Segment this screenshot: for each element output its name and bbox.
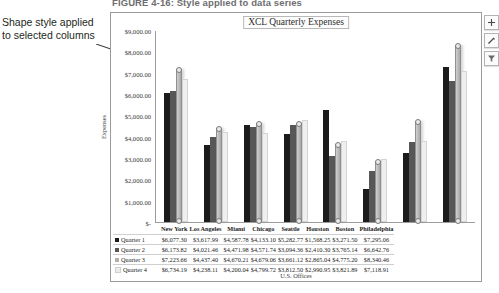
table-cell: $4,133.10 bbox=[250, 234, 277, 244]
table-cell: $2,865.04 bbox=[304, 254, 331, 264]
table-cell: $6,077.30 bbox=[160, 234, 189, 244]
x-axis-title: U.S. Offices bbox=[111, 272, 481, 279]
table-cell: $1,568.25 bbox=[304, 234, 331, 244]
bar-group[interactable] bbox=[276, 31, 316, 222]
bar-quarter-4[interactable] bbox=[262, 133, 268, 222]
table-cell: $5,282.77 bbox=[277, 234, 304, 244]
selection-handle[interactable] bbox=[256, 121, 262, 127]
table-cell: $4,587.78 bbox=[223, 234, 250, 244]
legend-swatch-icon bbox=[115, 238, 119, 242]
chart-filters-button[interactable] bbox=[484, 51, 499, 66]
chart-object[interactable]: XCL Quarterly Expenses Expenses $9,000.0… bbox=[110, 12, 482, 282]
callout-line-2: to selected columns bbox=[2, 29, 106, 42]
legend-swatch-icon bbox=[115, 258, 119, 262]
table-cell: $7,223.66 bbox=[160, 254, 189, 264]
data-table-body: Quarter 1$6,077.30$3,617.99$4,587.78$4,1… bbox=[113, 234, 394, 274]
bar-group[interactable] bbox=[156, 31, 196, 222]
legend-label: Quarter 2 bbox=[121, 246, 145, 253]
chart-data-table: New YorkLos AngelesMiamiChicagoSeattleHo… bbox=[113, 225, 394, 274]
paintbrush-icon bbox=[487, 36, 496, 45]
bar-group[interactable] bbox=[435, 31, 475, 222]
legend-entry[interactable]: Quarter 2 bbox=[113, 244, 160, 254]
data-table-header: New YorkLos AngelesMiamiChicagoSeattleHo… bbox=[113, 225, 394, 234]
legend-entry[interactable]: Quarter 3 bbox=[113, 254, 160, 264]
table-row: Quarter 3$7,223.66$4,437.40$4,670.21$4,6… bbox=[113, 254, 394, 264]
selection-handle[interactable] bbox=[415, 119, 421, 125]
table-column-header: Houston bbox=[304, 225, 331, 234]
bar-group[interactable] bbox=[236, 31, 276, 222]
chart-buttons-group bbox=[484, 15, 499, 66]
table-column-header: Miami bbox=[223, 225, 250, 234]
callout-annotation: Shape style applied to selected columns bbox=[2, 16, 106, 42]
y-axis-tick: $6,000.00 bbox=[125, 92, 151, 99]
legend-swatch-icon bbox=[115, 248, 119, 252]
bar-quarter-4[interactable] bbox=[182, 79, 188, 222]
figure-caption-text: Style applied to data series bbox=[177, 0, 302, 8]
table-corner-cell bbox=[113, 225, 160, 234]
y-axis-tick: $2,000.00 bbox=[125, 177, 151, 184]
table-cell: $3,271.50 bbox=[331, 234, 358, 244]
callout-line-1: Shape style applied bbox=[2, 16, 106, 29]
table-column-header: Philadelphia bbox=[358, 225, 394, 234]
chart-styles-button[interactable] bbox=[484, 33, 499, 48]
bar-quarter-4[interactable] bbox=[461, 71, 467, 222]
figure-caption: FIGURE 4-16: Style applied to data serie… bbox=[112, 0, 302, 8]
table-cell: $4,775.20 bbox=[331, 254, 358, 264]
bar-group[interactable] bbox=[355, 31, 395, 222]
bar-quarter-4[interactable] bbox=[421, 141, 427, 222]
table-column-header: Los Angeles bbox=[189, 225, 223, 234]
legend-label: Quarter 1 bbox=[121, 236, 145, 243]
y-axis-tick: $7,000.00 bbox=[125, 70, 151, 77]
plot-wrapper: Expenses $9,000.00$8,000.00$7,000.00$6,0… bbox=[155, 31, 475, 223]
table-cell: $3,765.14 bbox=[331, 244, 358, 254]
table-cell: $4,437.40 bbox=[189, 254, 223, 264]
table-column-header: Boston bbox=[331, 225, 358, 234]
y-axis-tick: $4,000.00 bbox=[125, 134, 151, 141]
y-axis-tick: $9,000.00 bbox=[125, 28, 151, 35]
plot-area[interactable] bbox=[155, 31, 475, 223]
table-cell: $4,471.98 bbox=[223, 244, 250, 254]
selection-handle[interactable] bbox=[216, 126, 222, 132]
y-axis-tick: $5,000.00 bbox=[125, 113, 151, 120]
bar-quarter-4[interactable] bbox=[381, 159, 387, 222]
y-axis: $9,000.00$8,000.00$7,000.00$6,000.00$5,0… bbox=[113, 31, 153, 223]
funnel-icon bbox=[487, 54, 496, 63]
y-axis-tick: $1,000.00 bbox=[125, 198, 151, 205]
bar-group[interactable] bbox=[316, 31, 356, 222]
table-column-header: Chicago bbox=[250, 225, 277, 234]
y-axis-tick: $3,000.00 bbox=[125, 156, 151, 163]
figure-number: FIGURE 4-16: bbox=[112, 0, 174, 8]
chart-elements-button[interactable] bbox=[484, 15, 499, 30]
bar-group[interactable] bbox=[196, 31, 236, 222]
table-row: Quarter 2$6,173.82$4,021.46$4,471.98$4,5… bbox=[113, 244, 394, 254]
table-column-header: New York bbox=[160, 225, 189, 234]
bar-quarter-4[interactable] bbox=[222, 132, 228, 222]
bar-quarter-4[interactable] bbox=[302, 120, 308, 222]
table-cell: $4,679.06 bbox=[250, 254, 277, 264]
table-header-row: New YorkLos AngelesMiamiChicagoSeattleHo… bbox=[113, 225, 394, 234]
y-axis-title: Expenses bbox=[100, 115, 107, 139]
plus-icon bbox=[487, 18, 496, 27]
table-cell: $4,571.74 bbox=[250, 244, 277, 254]
legend-label: Quarter 3 bbox=[121, 256, 145, 263]
table-row: Quarter 1$6,077.30$3,617.99$4,587.78$4,1… bbox=[113, 234, 394, 244]
chart-title[interactable]: XCL Quarterly Expenses bbox=[243, 16, 349, 29]
table-cell: $4,021.46 bbox=[189, 244, 223, 254]
table-cell: $2,410.30 bbox=[304, 244, 331, 254]
selection-handle[interactable] bbox=[176, 67, 182, 73]
y-axis-tick: $8,000.00 bbox=[125, 49, 151, 56]
table-cell: $3,661.12 bbox=[277, 254, 304, 264]
table-cell: $8,340.46 bbox=[358, 254, 394, 264]
table-cell: $7,295.06 bbox=[358, 234, 394, 244]
selection-handle[interactable] bbox=[455, 43, 461, 49]
table-cell: $4,670.21 bbox=[223, 254, 250, 264]
bar-quarter-4[interactable] bbox=[341, 141, 347, 222]
table-cell: $3,094.36 bbox=[277, 244, 304, 254]
legend-entry[interactable]: Quarter 1 bbox=[113, 234, 160, 244]
table-cell: $6,642.76 bbox=[358, 244, 394, 254]
table-column-header: Seattle bbox=[277, 225, 304, 234]
table-cell: $6,173.82 bbox=[160, 244, 189, 254]
bar-group[interactable] bbox=[395, 31, 435, 222]
table-cell: $3,617.99 bbox=[189, 234, 223, 244]
